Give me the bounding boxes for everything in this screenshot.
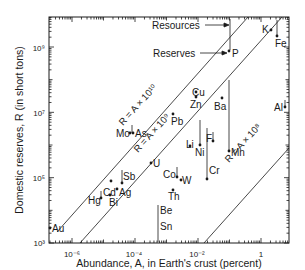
y-tick-label: 10⁷ bbox=[33, 109, 45, 118]
y-axis-ticks-right bbox=[284, 17, 289, 243]
point-co bbox=[176, 176, 179, 179]
label-f: F bbox=[206, 133, 212, 144]
reserves-vs-abundance-chart: 10⁻⁶ 10⁻⁴ 10⁻² 1 10³ 10⁵ 10⁷ 10⁹ Abundan… bbox=[0, 0, 305, 270]
point-as bbox=[132, 132, 135, 135]
point-ag bbox=[116, 188, 119, 191]
point-fe bbox=[276, 35, 279, 38]
point-mn bbox=[228, 150, 231, 153]
point-u bbox=[150, 162, 153, 165]
point-ni bbox=[199, 144, 202, 147]
reference-line-label-1e10: R = A × 10¹⁰ bbox=[116, 82, 159, 128]
label-u: U bbox=[153, 158, 160, 169]
label-th: Th bbox=[168, 191, 180, 202]
label-cr: Cr bbox=[209, 165, 220, 176]
y-tick-label: 10⁵ bbox=[33, 174, 45, 183]
point-p bbox=[228, 50, 231, 53]
label-fe: Fe bbox=[275, 38, 287, 49]
y-tick-label: 10³ bbox=[33, 239, 45, 248]
label-be: Be bbox=[160, 205, 173, 216]
point-pb bbox=[172, 113, 175, 116]
label-sn: Sn bbox=[160, 221, 172, 232]
y-axis-title: Domestic reserves, R (in short tons) bbox=[13, 46, 25, 213]
point-au bbox=[49, 227, 52, 230]
label-cu: Cu bbox=[192, 87, 205, 98]
label-mn: Mn bbox=[231, 147, 245, 158]
y-tick-label: 10⁹ bbox=[33, 44, 45, 53]
point-al bbox=[284, 106, 287, 109]
label-p: P bbox=[232, 48, 239, 59]
resources-annotation: Resources bbox=[152, 20, 200, 31]
label-w: W bbox=[182, 175, 192, 186]
point-ba bbox=[221, 97, 224, 100]
label-sb: Sb bbox=[123, 171, 136, 182]
label-zn: Zn bbox=[190, 99, 202, 110]
point-cr bbox=[206, 178, 209, 181]
point-cd bbox=[110, 180, 113, 183]
label-al: Al bbox=[274, 102, 283, 113]
label-bi: Bi bbox=[109, 197, 118, 208]
label-mo: Mo bbox=[116, 128, 130, 139]
label-ni: Ni bbox=[195, 147, 204, 158]
annotation-arrows bbox=[200, 23, 229, 55]
label-ag: Ag bbox=[119, 187, 131, 198]
label-li: Li bbox=[186, 139, 194, 150]
reference-line-1e8 bbox=[204, 148, 289, 243]
reserves-annotation: Reserves bbox=[153, 48, 195, 59]
label-as: As bbox=[135, 128, 147, 139]
label-au: Au bbox=[52, 223, 64, 234]
label-hg: Hg bbox=[88, 195, 101, 206]
point-k bbox=[270, 29, 273, 32]
label-ba: Ba bbox=[214, 101, 227, 112]
label-co: Co bbox=[163, 169, 176, 180]
label-pb: Pb bbox=[171, 116, 184, 127]
point-sb bbox=[121, 182, 124, 185]
label-k: K bbox=[262, 24, 269, 35]
y-axis-ticks bbox=[49, 17, 54, 243]
x-axis-ticks bbox=[50, 238, 288, 243]
x-axis-title: Abundance, A, in Earth's crust (percent) bbox=[76, 257, 261, 269]
